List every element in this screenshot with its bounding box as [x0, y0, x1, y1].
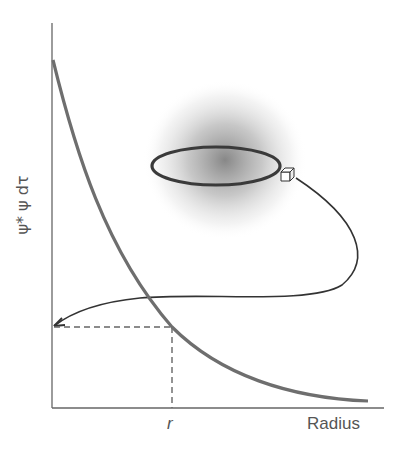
diagram-canvas	[0, 0, 404, 461]
electron-cloud	[143, 80, 307, 240]
y-axis-label-text: ψ* ψ dτ	[13, 175, 32, 234]
r-marker-label: r	[167, 414, 173, 434]
y-axis-label: ψ* ψ dτ	[7, 155, 37, 255]
volume-element-cube-icon	[281, 168, 294, 181]
x-axis-label: Radius	[307, 414, 360, 434]
